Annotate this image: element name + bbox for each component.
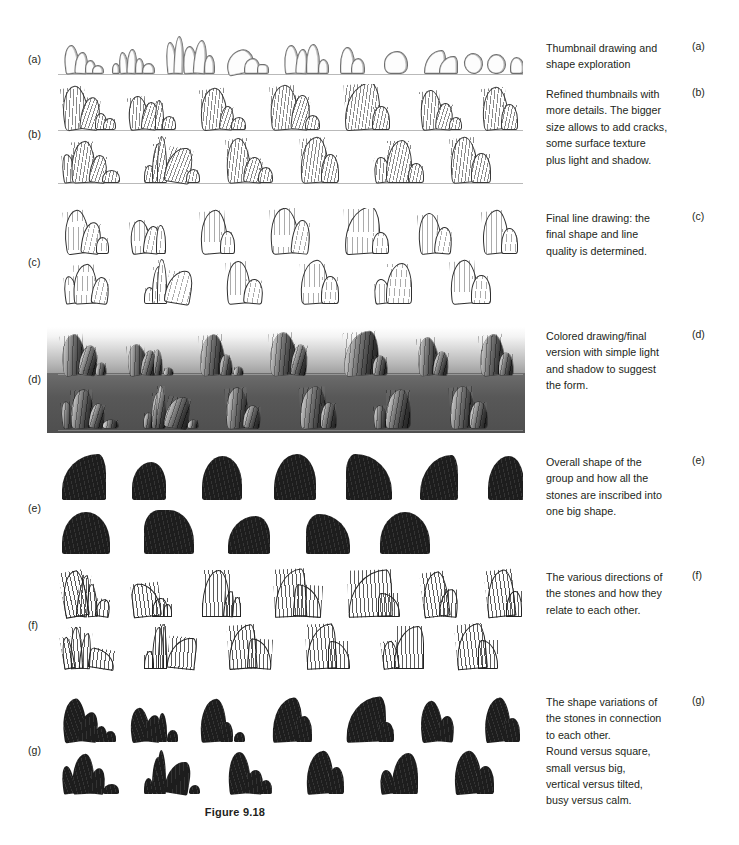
row-label-e: (e) <box>28 502 41 514</box>
figure-row-e: (e) <box>0 452 739 558</box>
caption-letter-d: (d) <box>692 328 705 340</box>
caption-letter-e: (e) <box>692 454 705 466</box>
caption-row-g: The shape variations of the stones in co… <box>546 694 678 809</box>
caption-letter-f: (f) <box>692 569 702 581</box>
caption-row-b: Refined thumbnails with more details. Th… <box>546 86 678 168</box>
caption-letter-b: (b) <box>692 86 705 98</box>
figure-row-c: (c) <box>0 208 739 308</box>
caption-letter-c: (c) <box>692 210 704 222</box>
row-label-b: (b) <box>28 128 41 140</box>
caption-row-d: Colored drawing/final version with simpl… <box>546 328 678 394</box>
figure-row-a: (a) <box>0 30 739 82</box>
artwork-row-d <box>58 327 523 433</box>
artwork-row-e <box>58 452 523 556</box>
figure-row-d: (d) <box>0 327 739 433</box>
row-label-g: (g) <box>28 744 41 756</box>
artwork-row-c <box>58 208 523 306</box>
row-label-d: (d) <box>28 373 41 385</box>
artwork-row-g <box>58 692 523 796</box>
caption-row-f: The various directions of the stones and… <box>546 569 678 618</box>
figure-row-f: (f) <box>0 567 739 673</box>
row-label-a: (a) <box>28 53 41 65</box>
row-label-f: (f) <box>28 619 38 631</box>
artwork-row-f <box>58 567 523 671</box>
figure-page: (a) <box>0 0 739 845</box>
artwork-row-a <box>58 30 523 80</box>
figure-row-g: (g) <box>0 692 739 798</box>
caption-letter-g: (g) <box>692 694 705 706</box>
caption-row-a: Thumbnail drawing and shape exploration <box>546 40 678 73</box>
figure-row-b: (b) <box>0 84 739 188</box>
caption-row-e: Overall shape of the group and how all t… <box>546 454 678 520</box>
row-label-c: (c) <box>28 256 41 268</box>
figure-label: Figure 9.18 <box>0 806 470 818</box>
artwork-row-b <box>58 84 523 186</box>
caption-row-c: Final line drawing: the final shape and … <box>546 210 678 259</box>
caption-letter-a: (a) <box>692 40 705 52</box>
